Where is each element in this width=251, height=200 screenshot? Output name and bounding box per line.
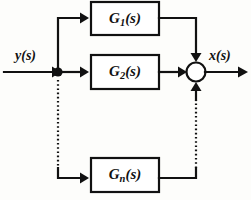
path-g1-output-group bbox=[159, 18, 202, 62]
gn-input-wire bbox=[58, 168, 80, 178]
gn-output-arrow-head-icon bbox=[191, 82, 202, 91]
output-wire-group bbox=[205, 67, 248, 78]
block-gn-label-main: G bbox=[109, 166, 120, 182]
g1-output-wire bbox=[159, 18, 196, 53]
block-diagram-svg: G1(s) G2(s) bbox=[0, 0, 251, 200]
gn-input-arrow-head-icon bbox=[80, 173, 89, 184]
input-signal-label: y(s) bbox=[13, 48, 36, 64]
path-gn-input-group bbox=[58, 168, 89, 184]
block-gn-label: Gn(s) bbox=[109, 166, 142, 184]
block-g1[interactable]: G1(s) bbox=[91, 2, 159, 35]
g1-input-wire bbox=[58, 18, 80, 72]
path-g1-input-group bbox=[58, 13, 89, 73]
block-g1-label: G1(s) bbox=[109, 10, 141, 28]
g2-input-arrow-head-icon bbox=[80, 67, 89, 78]
block-gn[interactable]: Gn(s) bbox=[91, 158, 159, 192]
g1-input-arrow-head-icon bbox=[80, 13, 89, 24]
path-g2-output-group bbox=[159, 67, 187, 78]
input-wire-group bbox=[4, 67, 63, 78]
output-signal-label: x(s) bbox=[208, 48, 231, 64]
gn-output-wire bbox=[159, 168, 196, 178]
g1-output-arrow-head-icon bbox=[191, 53, 202, 62]
output-arrow-head-icon bbox=[238, 67, 248, 78]
summing-junction[interactable] bbox=[187, 63, 206, 82]
block-gn-label-tail: (s) bbox=[125, 166, 141, 183]
block-g2-label: G2(s) bbox=[109, 63, 141, 81]
block-g1-label-main: G bbox=[109, 10, 120, 26]
block-diagram-canvas: G1(s) G2(s) bbox=[0, 0, 251, 200]
block-g1-label-tail: (s) bbox=[125, 10, 141, 27]
block-g2[interactable]: G2(s) bbox=[91, 55, 159, 89]
block-g2-label-tail: (s) bbox=[125, 63, 141, 80]
path-gn-output-group bbox=[159, 82, 202, 178]
block-g2-label-main: G bbox=[109, 63, 120, 79]
path-g2-input-group bbox=[58, 67, 89, 78]
